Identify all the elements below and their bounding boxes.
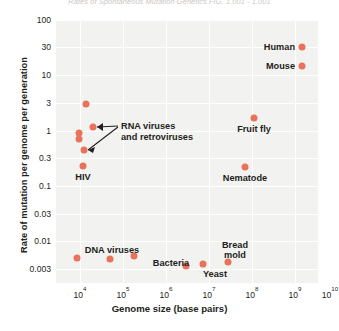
point-dna-virus-2[interactable] xyxy=(107,256,114,263)
x-tick-exp: 8 xyxy=(255,285,258,292)
x-tick-base: 10 xyxy=(202,290,212,300)
x-tick-exp: 6 xyxy=(169,285,172,292)
x-tick-base: 10 xyxy=(73,290,83,300)
x-tick-exp: 5 xyxy=(126,285,129,292)
x-tick-exp: 4 xyxy=(83,285,86,292)
x-tick-base: 10 xyxy=(245,290,255,300)
point-yeast[interactable] xyxy=(200,261,207,268)
point-fruit-fly[interactable] xyxy=(251,115,258,122)
label-bread-mold-line2: mold xyxy=(224,250,246,261)
x-tick-exp: 9 xyxy=(298,285,301,292)
x-tick-base: 10 xyxy=(288,290,298,300)
y-axis-title: Rate of mutation per genome per generati… xyxy=(19,35,29,275)
point-human[interactable] xyxy=(299,44,306,51)
x-tick-exp: 7 xyxy=(212,285,215,292)
label-yeast: Yeast xyxy=(203,269,227,280)
x-tick-1e8: 108 xyxy=(245,288,258,300)
point-rna-virus-1[interactable] xyxy=(83,101,90,108)
x-tick-base: 10 xyxy=(159,290,169,300)
x-tick-exp: 10 xyxy=(331,285,338,292)
x-tick-1e9: 109 xyxy=(288,288,301,300)
x-tick-1e4: 104 xyxy=(73,288,86,300)
x-tick-1e6: 106 xyxy=(159,288,172,300)
label-human: Human xyxy=(264,42,295,53)
x-axis-title: Genome size (base pairs) xyxy=(0,303,339,314)
label-fruit-fly: Fruit fly xyxy=(237,124,271,135)
label-mouse: Mouse xyxy=(266,61,295,72)
label-nematode: Nematode xyxy=(223,173,267,184)
label-rna-viruses-line2: and retroviruses xyxy=(121,132,193,143)
x-tick-1e7: 107 xyxy=(202,288,215,300)
point-nematode[interactable] xyxy=(242,164,249,171)
chart-figure: Rates of Spontaneous Mutation Genetics F… xyxy=(0,0,339,331)
x-tick-1e5: 105 xyxy=(116,288,129,300)
label-bacteria: Bacteria xyxy=(153,258,189,269)
x-tick-1e10: 1010 xyxy=(322,288,338,300)
x-tick-base: 10 xyxy=(116,290,126,300)
point-mouse[interactable] xyxy=(299,63,306,70)
label-hiv: HIV xyxy=(75,172,90,183)
x-tick-base: 10 xyxy=(322,290,332,300)
point-hiv[interactable] xyxy=(80,163,87,170)
label-rna-viruses-line1: RNA viruses xyxy=(121,121,175,132)
point-rna-virus-2[interactable] xyxy=(90,124,97,131)
point-rna-virus-5[interactable] xyxy=(81,147,88,154)
point-rna-virus-4[interactable] xyxy=(76,136,83,143)
label-bread-mold-line1: Bread xyxy=(222,240,248,251)
point-dna-virus-1[interactable] xyxy=(74,255,81,262)
label-dna-viruses: DNA viruses xyxy=(85,245,139,256)
